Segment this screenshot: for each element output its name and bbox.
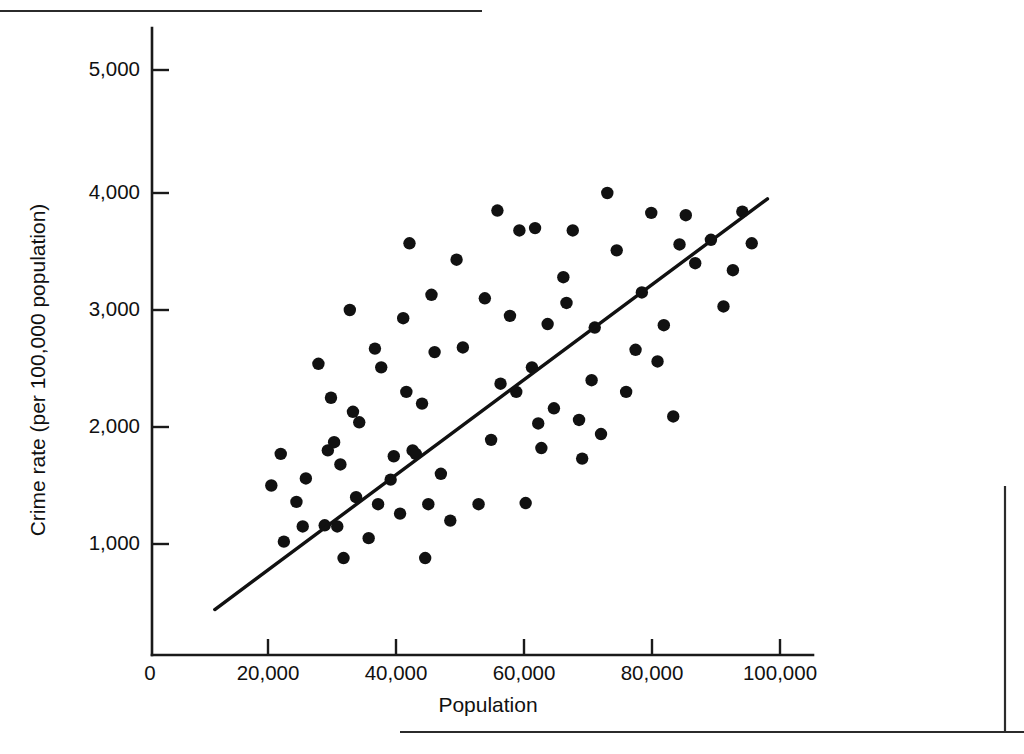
data-point: [275, 448, 287, 460]
axes: [152, 28, 813, 655]
x-tick-label-40000: 40,000: [365, 661, 428, 684]
data-point: [651, 355, 663, 367]
data-point: [548, 402, 560, 414]
data-point: [611, 244, 623, 256]
data-point: [689, 257, 701, 269]
data-point: [457, 341, 469, 353]
data-point: [673, 238, 685, 250]
data-point: [491, 204, 503, 216]
data-point: [400, 386, 412, 398]
data-point: [557, 271, 569, 283]
data-point: [290, 496, 302, 508]
data-point: [479, 292, 491, 304]
data-point: [334, 458, 346, 470]
data-point: [504, 310, 516, 322]
data-point: [629, 344, 641, 356]
figure-container: 5,000 4,000 3,000 2,000 1,000 0 20,000 4…: [0, 0, 1024, 754]
data-point: [325, 392, 337, 404]
data-point: [422, 498, 434, 510]
x-axis-tick-labels: 0 20,000 40,000 60,000 80,000 100,000: [144, 661, 817, 684]
x-axis-ticks: [268, 639, 780, 655]
data-point: [397, 312, 409, 324]
data-point: [435, 468, 447, 480]
data-point: [472, 498, 484, 510]
data-point: [658, 319, 670, 331]
data-point: [585, 374, 597, 386]
y-axis-tick-labels: 5,000 4,000 3,000 2,000 1,000: [89, 57, 140, 554]
data-point: [337, 552, 349, 564]
data-point: [297, 520, 309, 532]
data-points-layer: [265, 187, 758, 564]
data-point: [375, 361, 387, 373]
data-point: [519, 497, 531, 509]
data-point: [312, 358, 324, 370]
data-point: [450, 253, 462, 265]
y-axis-title: Crime rate (per 100,000 population): [26, 204, 49, 537]
data-point: [428, 346, 440, 358]
y-tick-label-3000: 3,000: [89, 297, 140, 320]
data-point: [425, 289, 437, 301]
data-point: [680, 209, 692, 221]
page-rules: [0, 11, 1024, 732]
data-point: [353, 416, 365, 428]
data-point: [419, 552, 431, 564]
x-tick-label-0: 0: [144, 661, 155, 684]
x-tick-label-80000: 80,000: [621, 661, 684, 684]
data-point: [532, 417, 544, 429]
x-axis-title: Population: [438, 693, 537, 716]
data-point: [444, 514, 456, 526]
data-point: [620, 386, 632, 398]
data-point: [300, 472, 312, 484]
data-point: [746, 237, 758, 249]
regression-trend-line: [215, 199, 768, 610]
data-point: [573, 414, 585, 426]
data-point: [278, 535, 290, 547]
data-point: [645, 207, 657, 219]
data-point: [328, 436, 340, 448]
x-tick-label-100000: 100,000: [743, 661, 817, 684]
data-point: [529, 222, 541, 234]
data-point: [595, 428, 607, 440]
data-point: [416, 397, 428, 409]
y-tick-label-4000: 4,000: [89, 180, 140, 203]
y-axis-ticks: [152, 70, 169, 544]
data-point: [567, 224, 579, 236]
data-point: [667, 410, 679, 422]
data-point: [344, 304, 356, 316]
data-point: [560, 297, 572, 309]
data-point: [265, 479, 277, 491]
x-tick-label-60000: 60,000: [493, 661, 556, 684]
y-tick-label-1000: 1,000: [89, 531, 140, 554]
data-point: [394, 507, 406, 519]
x-tick-label-20000: 20,000: [237, 661, 300, 684]
data-point: [576, 452, 588, 464]
data-point: [388, 450, 400, 462]
data-point: [403, 237, 415, 249]
data-point: [369, 342, 381, 354]
data-point: [485, 434, 497, 446]
data-point: [727, 264, 739, 276]
data-point: [362, 532, 374, 544]
y-tick-label-5000: 5,000: [89, 57, 140, 80]
data-point: [535, 442, 547, 454]
data-point: [347, 406, 359, 418]
data-point: [372, 498, 384, 510]
y-tick-label-2000: 2,000: [89, 414, 140, 437]
data-point: [513, 224, 525, 236]
scatter-plot: 5,000 4,000 3,000 2,000 1,000 0 20,000 4…: [0, 0, 1024, 754]
data-point: [717, 300, 729, 312]
data-point: [601, 187, 613, 199]
data-point: [541, 318, 553, 330]
data-point: [494, 378, 506, 390]
